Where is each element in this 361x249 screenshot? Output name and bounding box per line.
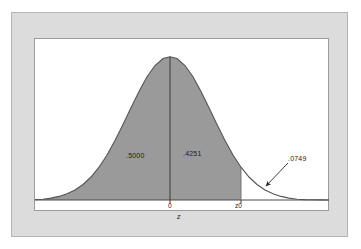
x-tick-label-zero: 0 — [168, 202, 172, 209]
area-label-tail: .0749 — [288, 155, 307, 162]
area-label-middle: .4251 — [183, 150, 202, 157]
area-label-left: .5000 — [126, 152, 145, 159]
x-tick-label-z0: z0 — [235, 202, 242, 209]
shaded-area — [35, 57, 241, 200]
x-axis-label: z — [177, 213, 181, 220]
distribution-plot — [0, 0, 361, 249]
tail-annotation-arrow — [266, 163, 288, 186]
normal-distribution-figure: .5000 .4251 .0749 0 z0 z — [0, 0, 361, 249]
